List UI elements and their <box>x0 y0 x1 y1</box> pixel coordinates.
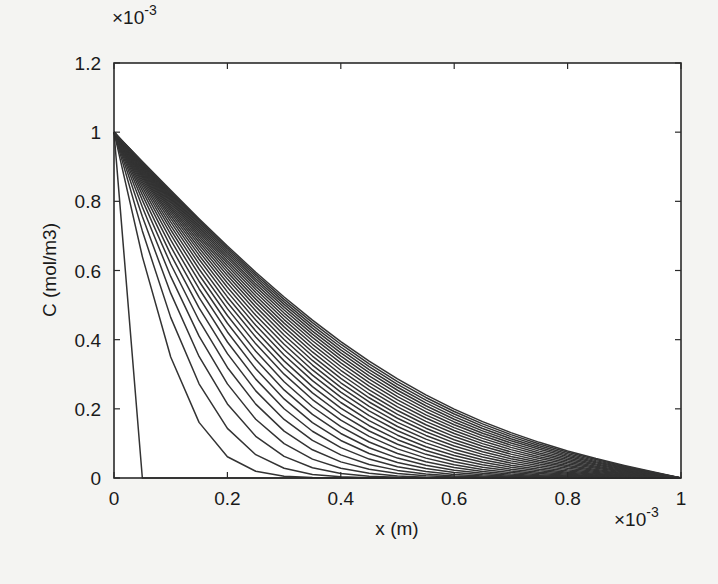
y-tick-label: 0.4 <box>75 330 102 351</box>
y-tick-label: 0.6 <box>75 261 101 282</box>
y-tick-label: 0.2 <box>75 399 101 420</box>
y-tick-label: 0.8 <box>75 191 101 212</box>
x-tick-label: 0.2 <box>214 488 240 509</box>
x-tick-label: 0.6 <box>441 488 467 509</box>
y-axis-label: C (mol/m3) <box>39 223 60 317</box>
x-tick-label: 0 <box>109 488 120 509</box>
y-axis-multiplier: ×10-3 <box>112 2 157 28</box>
x-axis-label: x (m) <box>375 518 418 539</box>
plot-area <box>114 63 681 478</box>
y-tick-label: 1.2 <box>75 53 101 74</box>
x-axis-multiplier: ×10-3 <box>614 504 659 530</box>
x-tick-label: 1 <box>676 488 687 509</box>
x-tick-label: 0.4 <box>328 488 355 509</box>
line-chart: 00.20.40.60.81 00.20.40.60.811.2 ×10-3 ×… <box>0 0 718 584</box>
y-tick-label: 0 <box>90 468 101 489</box>
x-tick-label: 0.8 <box>554 488 580 509</box>
y-tick-label: 1 <box>90 122 101 143</box>
figure: 00.20.40.60.81 00.20.40.60.811.2 ×10-3 ×… <box>0 0 718 584</box>
